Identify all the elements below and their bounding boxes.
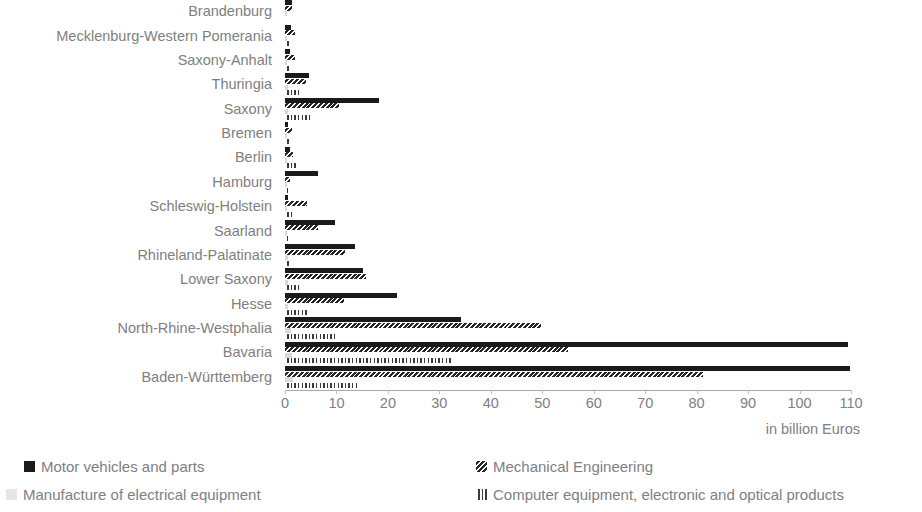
bar-2 xyxy=(285,255,288,260)
axis-tick-label: 30 xyxy=(431,396,447,411)
bar-group xyxy=(285,0,885,24)
axis-tick xyxy=(439,390,440,394)
bar-2 xyxy=(285,353,292,358)
bar-group xyxy=(285,24,885,48)
axis-tick-label: 70 xyxy=(637,396,653,411)
category-label: Berlin xyxy=(235,150,272,165)
bar-0 xyxy=(285,293,397,298)
bar-1 xyxy=(285,201,307,206)
axis-tick xyxy=(645,390,646,394)
bar-0 xyxy=(285,220,335,225)
legend-swatch-motor-vehicles xyxy=(24,461,35,472)
bar-0 xyxy=(285,0,292,5)
bar-group xyxy=(285,341,885,365)
legend-swatch-mechanical-engineering xyxy=(476,461,487,472)
axis-unit-label: in billion Euros xyxy=(766,421,860,437)
axis-tick-label: 10 xyxy=(328,396,344,411)
bar-group xyxy=(285,268,885,292)
category-label: Mecklenburg-Western Pomerania xyxy=(56,29,272,44)
bar-group xyxy=(285,73,885,97)
bar-1 xyxy=(285,103,339,108)
axis-tick-label: 20 xyxy=(380,396,396,411)
bar-3 xyxy=(285,383,358,388)
bar-1 xyxy=(285,30,295,35)
bar-1 xyxy=(285,6,292,11)
bar-group xyxy=(285,366,885,390)
bar-group xyxy=(285,244,885,268)
axis-tick-label: 90 xyxy=(740,396,756,411)
axis-tick-label: 100 xyxy=(787,396,811,411)
bar-1 xyxy=(285,177,290,182)
legend-item-mechanical-engineering[interactable]: Mechanical Engineering xyxy=(476,458,653,475)
legend-item-computer-equipment[interactable]: Computer equipment, electronic and optic… xyxy=(476,486,844,503)
bar-3 xyxy=(285,163,296,168)
bar-2 xyxy=(285,231,287,236)
bar-0 xyxy=(285,73,309,78)
bar-2 xyxy=(285,85,288,90)
bar-3 xyxy=(285,236,288,241)
bar-0 xyxy=(285,122,288,127)
bar-0 xyxy=(285,244,355,249)
bar-1 xyxy=(285,55,295,60)
category-label: Thuringia xyxy=(212,77,272,92)
category-label: Lower Saxony xyxy=(180,272,272,287)
bar-group xyxy=(285,293,885,317)
bar-2 xyxy=(285,280,288,285)
bar-group xyxy=(285,317,885,341)
legend-label-mechanical-engineering: Mechanical Engineering xyxy=(493,458,653,475)
axis-tick-label: 50 xyxy=(534,396,550,411)
bar-3 xyxy=(285,90,299,95)
category-label: Bavaria xyxy=(223,345,272,360)
category-label: Hamburg xyxy=(212,175,272,190)
bar-group xyxy=(285,49,885,73)
bar-3 xyxy=(285,41,290,46)
bar-0 xyxy=(285,268,363,273)
bar-1 xyxy=(285,298,344,303)
bar-0 xyxy=(285,195,288,200)
bar-0 xyxy=(285,147,290,152)
axis-tick xyxy=(388,390,389,394)
bar-0 xyxy=(285,171,318,176)
bar-1 xyxy=(285,274,366,279)
bar-group xyxy=(285,98,885,122)
bar-0 xyxy=(285,25,291,30)
bar-3 xyxy=(285,334,338,339)
bar-3 xyxy=(285,17,287,22)
axis-tick xyxy=(491,390,492,394)
axis-tick xyxy=(336,390,337,394)
axis-tick xyxy=(542,390,543,394)
category-axis-labels: BrandenburgMecklenburg-Western Pomerania… xyxy=(0,0,278,390)
axis-tick xyxy=(748,390,749,394)
bar-1 xyxy=(285,79,306,84)
bar-3 xyxy=(285,188,288,193)
axis-tick xyxy=(851,390,852,394)
bar-group xyxy=(285,171,885,195)
category-label: Rhineland-Palatinate xyxy=(137,248,272,263)
bar-1 xyxy=(285,128,292,133)
bar-1 xyxy=(285,347,568,352)
bar-2 xyxy=(285,158,287,163)
category-label: North-Rhine-Westphalia xyxy=(118,321,272,336)
category-label: Saarland xyxy=(214,224,272,239)
legend-item-electrical-equipment[interactable]: Manufacture of electrical equipment xyxy=(6,486,261,503)
axis-tick-label: 40 xyxy=(483,396,499,411)
bar-0 xyxy=(285,49,290,54)
category-label: Saxony xyxy=(224,102,272,117)
bar-2 xyxy=(285,328,291,333)
bar-3 xyxy=(285,115,312,120)
chart-legend: Motor vehicles and parts Mechanical Engi… xyxy=(0,452,922,512)
axis-tick-label: 0 xyxy=(281,396,289,411)
bar-1 xyxy=(285,225,318,230)
bar-2 xyxy=(285,182,287,187)
category-label: Baden-Württemberg xyxy=(141,370,272,385)
axis-tick-label: 80 xyxy=(689,396,705,411)
bar-group xyxy=(285,146,885,170)
bar-1 xyxy=(285,372,703,377)
bar-2 xyxy=(285,109,288,114)
bar-1 xyxy=(285,250,345,255)
legend-label-computer-equipment: Computer equipment, electronic and optic… xyxy=(493,486,844,503)
bar-group xyxy=(285,195,885,219)
bar-2 xyxy=(285,304,288,309)
category-label: Brandenburg xyxy=(188,4,272,19)
legend-item-motor-vehicles[interactable]: Motor vehicles and parts xyxy=(24,458,204,475)
